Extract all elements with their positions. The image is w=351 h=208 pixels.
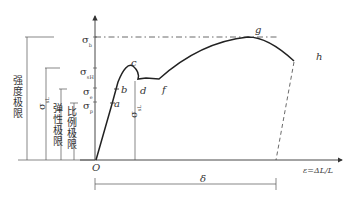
point-h-label: h [316, 51, 322, 62]
sigma-p-label: σp [83, 94, 93, 114]
unloading-line [276, 62, 294, 160]
x-axis-label: ε=ΔL/L [303, 166, 333, 175]
strength-limit-label: 强度极限 [9, 75, 24, 119]
point-g-label: g [255, 24, 261, 35]
point-d-label: d [140, 85, 146, 96]
proportional-limit-label: 比例极限 [63, 106, 78, 150]
sigma-b-label: σb [82, 28, 92, 48]
point-f-label: f [162, 84, 166, 95]
stress-strain-curve [96, 37, 294, 160]
sigma-sH-label: σsH [80, 60, 94, 80]
point-c-label: c [131, 57, 137, 68]
yield-sl-label: σsL [30, 97, 50, 110]
point-a-label: a [114, 98, 120, 109]
delta-label: δ [200, 173, 206, 184]
origin-label: O [92, 162, 100, 173]
elastic-limit-label: 弹性极限 [49, 103, 64, 147]
sigma-sL-curve-label: σsL [122, 105, 142, 118]
point-b-label: b [121, 84, 127, 95]
